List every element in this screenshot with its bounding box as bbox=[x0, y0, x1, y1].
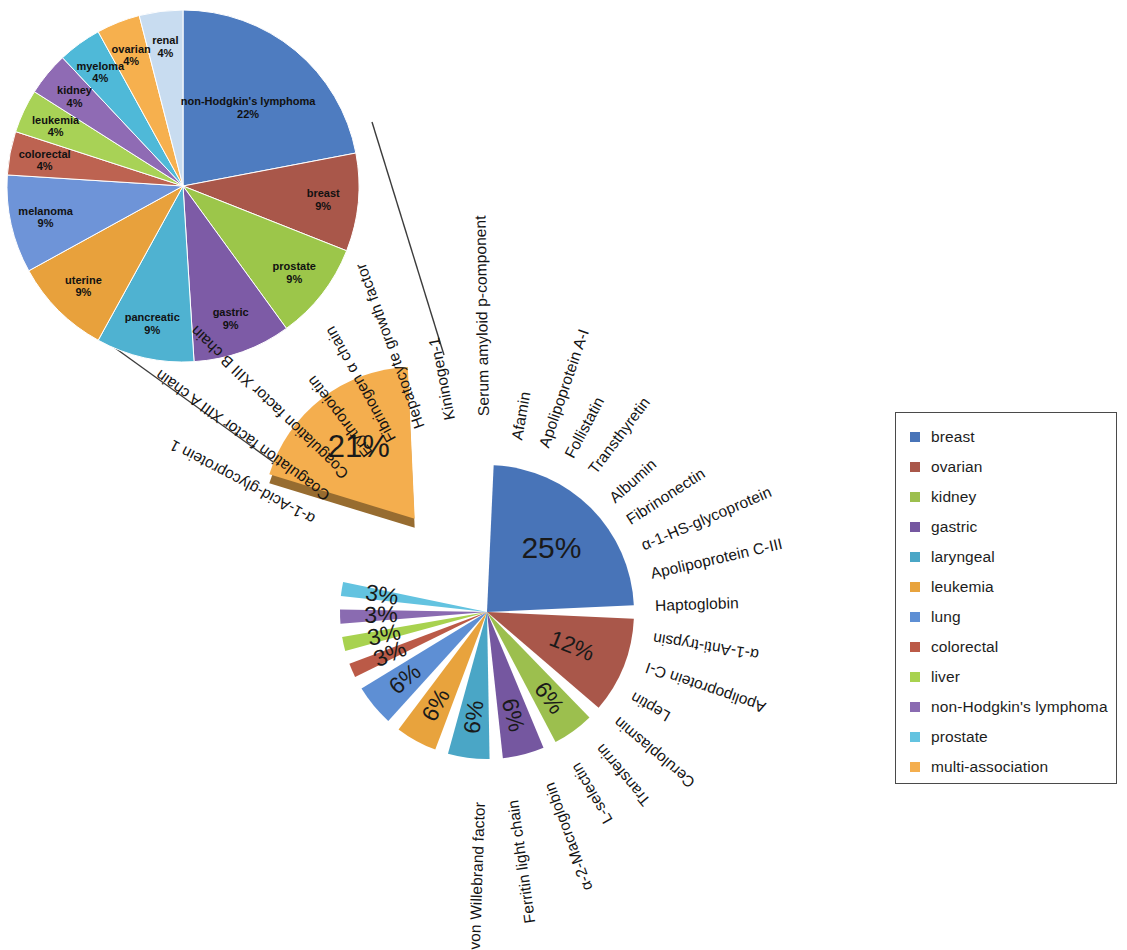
legend-swatch bbox=[910, 432, 920, 442]
inset-pie-slice-percent: 4% bbox=[57, 96, 92, 108]
inset-pie-slice-percent: 9% bbox=[213, 318, 249, 330]
legend-item-kidney[interactable]: kidney bbox=[910, 482, 1116, 512]
inset-pie-slice-label: breast9% bbox=[307, 187, 340, 212]
inset-pie-slice-percent: 9% bbox=[65, 286, 102, 298]
inset-pie-slice-label: gastric9% bbox=[213, 306, 249, 331]
legend-label: colorectal bbox=[931, 638, 998, 656]
legend-item-lung[interactable]: lung bbox=[910, 602, 1116, 632]
legend-swatch bbox=[910, 612, 920, 622]
legend-swatch bbox=[910, 492, 920, 502]
legend-item-prostate[interactable]: prostate bbox=[910, 722, 1116, 752]
legend-swatch bbox=[910, 672, 920, 682]
legend-label: kidney bbox=[931, 488, 976, 506]
inset-pie-slice-name: prostate bbox=[273, 260, 316, 272]
inset-pie-slice-percent: 4% bbox=[32, 126, 79, 138]
inset-pie-slice-label: kidney4% bbox=[57, 84, 92, 109]
legend-label: gastric bbox=[931, 518, 977, 536]
inset-pie-slice-label: colorectal4% bbox=[19, 147, 71, 172]
legend-swatch bbox=[910, 582, 920, 592]
protein-label: Serum amyloid p-component bbox=[471, 215, 492, 416]
legend-swatch bbox=[910, 462, 920, 472]
legend-label: lung bbox=[931, 608, 961, 626]
pie-slice-percent-label: 25% bbox=[521, 531, 581, 565]
legend-item-ovarian[interactable]: ovarian bbox=[910, 452, 1116, 482]
legend-item-leukemia[interactable]: leukemia bbox=[910, 572, 1116, 602]
inset-pie-slice-percent: 9% bbox=[125, 323, 180, 335]
inset-pie-slice-percent: 9% bbox=[307, 199, 340, 211]
legend-swatch bbox=[910, 732, 920, 742]
inset-pie-slice-percent: 9% bbox=[273, 272, 316, 284]
inset-pie-slice-name: gastric bbox=[213, 306, 249, 318]
legend-item-breast[interactable]: breast bbox=[910, 422, 1116, 452]
legend-swatch bbox=[910, 552, 920, 562]
inset-pie-slice-percent: 9% bbox=[18, 217, 72, 229]
inset-pie-slice-label: non-Hodgkin's lymphoma22% bbox=[181, 95, 316, 120]
inset-pie-slice-label: leukemia4% bbox=[32, 114, 79, 139]
inset-pie-slice-name: uterine bbox=[65, 273, 102, 285]
pie-slice-percent-label: 3% bbox=[364, 580, 401, 612]
legend-swatch bbox=[910, 522, 920, 532]
inset-pie-slice-name: leukemia bbox=[32, 114, 79, 126]
inset-pie-slice-label: melanoma9% bbox=[18, 204, 72, 229]
inset-pie-slice-label: renal4% bbox=[152, 34, 178, 59]
legend-item-liver[interactable]: liver bbox=[910, 662, 1116, 692]
inset-pie-slice-percent: 22% bbox=[181, 107, 316, 119]
legend-label: laryngeal bbox=[931, 548, 995, 566]
legend-item-laryngeal[interactable]: laryngeal bbox=[910, 542, 1116, 572]
legend-swatch bbox=[910, 762, 920, 772]
legend-label: multi-association bbox=[931, 758, 1048, 776]
inset-pie-slice-name: renal bbox=[152, 34, 178, 46]
inset-pie-slice-name: non-Hodgkin's lymphoma bbox=[181, 95, 316, 107]
legend-swatch bbox=[910, 702, 920, 712]
inset-pie-slice-percent: 4% bbox=[76, 72, 124, 84]
protein-label: Haptoglobin bbox=[655, 594, 739, 615]
inset-pie-slice-name: kidney bbox=[57, 84, 92, 96]
pie-slice-fill[interactable] bbox=[341, 582, 487, 612]
legend-label: non-Hodgkin's lymphoma bbox=[931, 698, 1108, 716]
protein-label: von Willebrand factor bbox=[466, 802, 489, 950]
inset-pie-slice-label: pancreatic9% bbox=[125, 311, 180, 336]
pie-slice-percent-label: 6% bbox=[458, 699, 489, 735]
legend-label: liver bbox=[931, 668, 960, 686]
inset-pie-slice-name: pancreatic bbox=[125, 311, 180, 323]
pie-slice-prostate[interactable] bbox=[341, 582, 487, 612]
legend-label: leukemia bbox=[931, 578, 994, 596]
inset-pie-slice-label: ovarian4% bbox=[112, 43, 151, 68]
inset-pie-slice-percent: 4% bbox=[112, 55, 151, 67]
inset-pie-slice-label: prostate9% bbox=[273, 260, 316, 285]
inset-pie-slice-percent: 4% bbox=[152, 46, 178, 58]
inset-pie-slice-label: uterine9% bbox=[65, 273, 102, 298]
inset-pie-slice-name: colorectal bbox=[19, 147, 71, 159]
legend-swatch bbox=[910, 642, 920, 652]
inset-pie-slice-percent: 4% bbox=[19, 160, 71, 172]
legend-item-gastric[interactable]: gastric bbox=[910, 512, 1116, 542]
legend-label: breast bbox=[931, 428, 975, 446]
legend-label: prostate bbox=[931, 728, 988, 746]
inset-pie-slice-name: melanoma bbox=[18, 204, 72, 216]
legend-label: ovarian bbox=[931, 458, 983, 476]
legend-item-colorectal[interactable]: colorectal bbox=[910, 632, 1116, 662]
inset-pie-slice-name: ovarian bbox=[112, 43, 151, 55]
inset-pie-slice-name: breast bbox=[307, 187, 340, 199]
legend-item-non-hodgkin-s-lymphoma[interactable]: non-Hodgkin's lymphoma bbox=[910, 692, 1116, 722]
legend-item-multi-association[interactable]: multi-association bbox=[910, 752, 1116, 782]
legend: breastovariankidneygastriclaryngealleuke… bbox=[895, 412, 1117, 784]
